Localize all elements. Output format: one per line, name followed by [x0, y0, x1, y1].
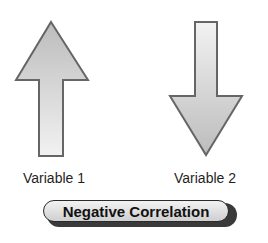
down-arrow-icon	[170, 22, 242, 155]
up-arrow-icon	[16, 22, 88, 156]
variable-2-label: Variable 2	[174, 170, 236, 186]
badge-label: Negative Correlation	[43, 200, 229, 222]
correlation-badge: Negative Correlation	[43, 200, 233, 225]
variable-1-label: Variable 1	[23, 170, 85, 186]
